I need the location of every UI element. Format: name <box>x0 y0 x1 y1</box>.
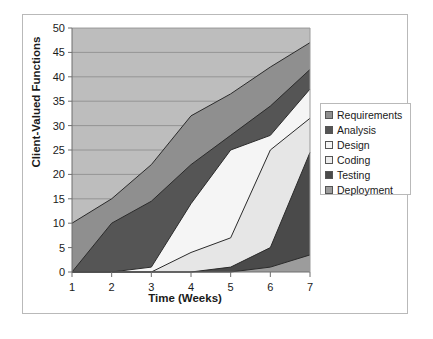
legend-swatch-icon <box>325 186 333 194</box>
legend-item-label: Coding <box>337 155 370 166</box>
legend-swatch-icon <box>325 111 333 119</box>
legend-item-label: Deployment <box>337 185 393 196</box>
legend-item-analysis[interactable]: Analysis <box>325 123 407 137</box>
legend-item-design[interactable]: Design <box>325 138 407 152</box>
y-tick-label: 45 <box>53 46 65 58</box>
chart-legend: RequirementsAnalysisDesignCodingTestingD… <box>320 103 411 195</box>
legend-swatch-icon <box>325 141 333 149</box>
legend-swatch-icon <box>325 171 333 179</box>
y-tick-label: 40 <box>53 71 65 83</box>
legend-item-testing[interactable]: Testing <box>325 168 407 182</box>
y-axis-title: Client-Valued Functions <box>30 22 42 182</box>
legend-item-requirements[interactable]: Requirements <box>325 108 407 122</box>
legend-item-label: Design <box>337 140 370 151</box>
legend-swatch-icon <box>325 156 333 164</box>
x-axis-title: Time (Weeks) <box>55 292 315 304</box>
y-tick-label: 0 <box>59 266 65 278</box>
legend-item-label: Testing <box>337 170 370 181</box>
y-tick-label: 25 <box>53 144 65 156</box>
legend-item-label: Requirements <box>337 110 402 121</box>
y-tick-label: 15 <box>53 193 65 205</box>
legend-item-coding[interactable]: Coding <box>325 153 407 167</box>
y-tick-label: 20 <box>53 168 65 180</box>
y-tick-label: 35 <box>53 95 65 107</box>
legend-item-deployment[interactable]: Deployment <box>325 183 407 197</box>
y-tick-label: 30 <box>53 120 65 132</box>
legend-item-label: Analysis <box>337 125 376 136</box>
y-tick-label: 10 <box>53 217 65 229</box>
y-tick-label: 50 <box>53 22 65 34</box>
legend-swatch-icon <box>325 126 333 134</box>
y-tick-label: 5 <box>59 242 65 254</box>
chart-figure: 051015202530354045501234567 Client-Value… <box>0 0 433 339</box>
